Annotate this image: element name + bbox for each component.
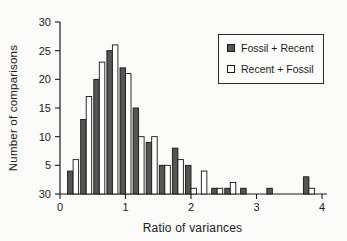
y-axis-title: Number of comparisons [7, 45, 19, 171]
x-tick-label: 3 [253, 201, 259, 213]
bar-recent-fossil [73, 160, 79, 194]
bar-fossil-recent [94, 79, 100, 194]
y-tick-label: 25 [39, 45, 51, 57]
bar-fossil-recent [107, 51, 113, 194]
bar-fossil-recent [212, 188, 218, 194]
legend-item-fossil-recent: Fossil + Recent [227, 42, 314, 54]
open-square-swatch-icon [227, 65, 235, 73]
bar-fossil-recent [225, 188, 231, 194]
y-tick-label: 5 [45, 159, 51, 171]
x-tick-label: 1 [122, 201, 128, 213]
bar-recent-fossil [86, 97, 92, 194]
legend-item-recent-fossil: Recent + Fossil [227, 63, 314, 75]
bar-recent-fossil [178, 160, 184, 194]
x-tick-label: 0 [57, 201, 63, 213]
bar-fossil-recent [303, 177, 309, 194]
x-tick-label: 2 [188, 201, 194, 213]
legend-label-recent-fossil: Recent + Fossil [241, 63, 314, 75]
bar-recent-fossil [126, 74, 132, 194]
x-tick-label: 4 [319, 201, 325, 213]
bar-recent-fossil [112, 45, 118, 194]
bar-recent-fossil [165, 165, 171, 194]
bar-fossil-recent [133, 108, 139, 194]
bar-fossil-recent [146, 142, 152, 194]
bar-fossil-recent [241, 188, 247, 194]
y-tick-label: 30 [39, 16, 51, 28]
x-axis-title: Ratio of variances [120, 221, 265, 235]
y-tick-label: 20 [39, 73, 51, 85]
y-tick-label: 15 [39, 102, 51, 114]
bar-fossil-recent [186, 165, 192, 194]
y-tick-label: 10 [39, 131, 51, 143]
bar-fossil-recent [120, 68, 126, 194]
bar-fossil-recent [267, 188, 273, 194]
bar-recent-fossil [230, 183, 236, 194]
bar-recent-fossil [152, 137, 158, 194]
legend-label-fossil-recent: Fossil + Recent [241, 42, 314, 54]
bar-recent-fossil [309, 188, 315, 194]
bar-fossil-recent [159, 165, 165, 194]
filled-square-swatch-icon [227, 44, 235, 52]
bar-fossil-recent [172, 148, 178, 194]
bar-fossil-recent [68, 171, 74, 194]
bar-fossil-recent [81, 119, 87, 194]
y-tick-label: 30 [39, 188, 51, 200]
bar-recent-fossil [217, 188, 223, 194]
bar-recent-fossil [191, 188, 197, 194]
bar-recent-fossil [139, 137, 145, 194]
variance-ratio-histogram-figure: 302520151053001234 Number of comparisons… [0, 0, 347, 241]
legend: Fossil + Recent Recent + Fossil [218, 34, 324, 84]
bar-recent-fossil [201, 171, 207, 194]
bar-recent-fossil [99, 62, 105, 194]
